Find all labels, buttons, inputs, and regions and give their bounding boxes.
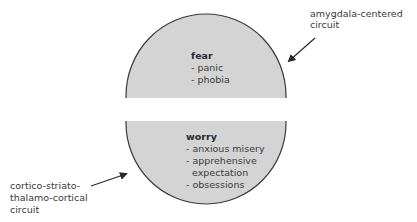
worry-title: worry <box>186 131 217 143</box>
worry-item: - obsessions <box>186 179 244 191</box>
cstc-label-line: thalamo-cortical <box>10 192 88 203</box>
amygdala-label-line: circuit <box>310 19 339 30</box>
worry-item: - apprehensive <box>186 155 257 167</box>
cstc-arrow <box>91 174 126 186</box>
amygdala-label-line: amygdala-centered <box>310 8 403 19</box>
cstc-label-line: circuit <box>10 204 39 215</box>
amygdala-arrow <box>289 38 315 61</box>
worry-item: - anxious misery <box>186 143 265 155</box>
fear-item: - phobia <box>191 74 230 86</box>
fear-item: - panic <box>191 62 223 74</box>
worry-item: expectation <box>186 167 248 179</box>
cstc-label-line: cortico-striato- <box>10 180 80 191</box>
fear-title: fear <box>191 50 213 62</box>
